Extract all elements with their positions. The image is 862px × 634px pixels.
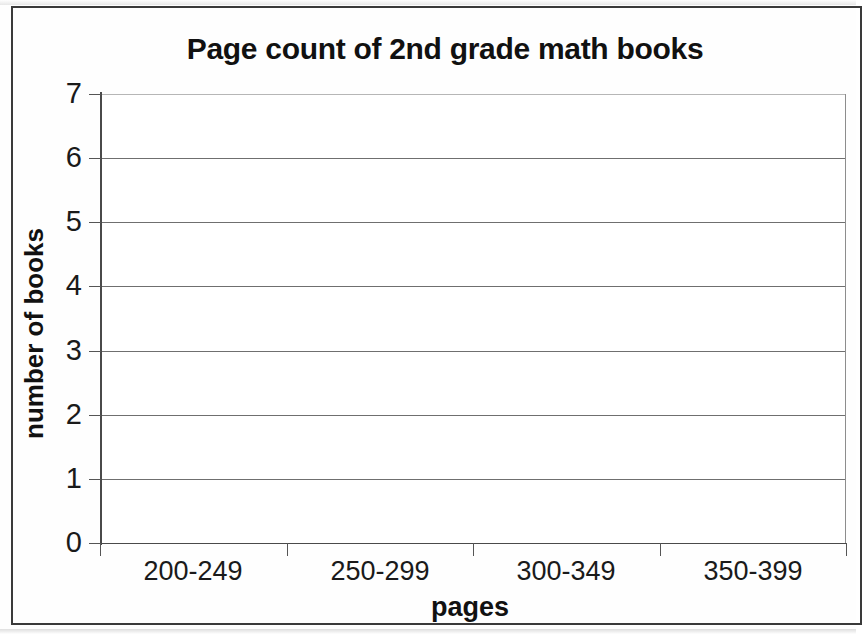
y-axis-line bbox=[100, 92, 102, 545]
gridline bbox=[100, 479, 846, 480]
x-axis-tick-label: 250-299 bbox=[280, 558, 480, 585]
x-axis-tick bbox=[846, 543, 847, 556]
y-axis-tick bbox=[89, 415, 101, 416]
gridline bbox=[100, 222, 846, 223]
scan-edge-artifact-bottom bbox=[0, 629, 856, 634]
gridline bbox=[100, 415, 846, 416]
y-axis-tick bbox=[89, 222, 101, 223]
y-axis-tick bbox=[89, 479, 101, 480]
gridlines bbox=[100, 94, 846, 543]
gridline bbox=[100, 351, 846, 352]
y-axis-tick bbox=[89, 351, 101, 352]
x-axis-tick-label: 200-249 bbox=[93, 558, 293, 585]
y-axis-tick-label: 6 bbox=[22, 143, 82, 172]
y-axis-tick bbox=[89, 286, 101, 287]
plot-area bbox=[100, 94, 846, 543]
x-axis-tick bbox=[660, 543, 661, 556]
y-axis-tick-label: 7 bbox=[22, 79, 82, 108]
x-axis-tick bbox=[287, 543, 288, 556]
x-axis-tick bbox=[100, 543, 101, 556]
x-axis-tick-label: 350-399 bbox=[653, 558, 853, 585]
gridline bbox=[100, 94, 846, 95]
y-axis-title: number of books bbox=[19, 194, 50, 474]
y-axis-tick-label: 0 bbox=[22, 528, 82, 557]
plot-right-frame bbox=[845, 94, 846, 543]
x-axis-tick bbox=[473, 543, 474, 556]
x-axis-title: pages bbox=[370, 592, 570, 623]
y-axis-tick bbox=[89, 94, 101, 95]
y-axis-tick bbox=[89, 158, 101, 159]
scan-edge-artifact-top bbox=[0, 0, 856, 5]
chart-title: Page count of 2nd grade math books bbox=[100, 32, 790, 66]
x-axis-tick-label: 300-349 bbox=[466, 558, 666, 585]
gridline bbox=[100, 286, 846, 287]
gridline bbox=[100, 158, 846, 159]
